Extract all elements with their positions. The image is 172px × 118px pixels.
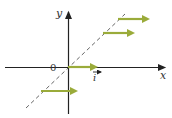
unit-vector-label: i [93,73,96,83]
y-axis-label: y [56,8,62,19]
origin-label: 0 [50,63,56,73]
dashed-line-y-equals-x [26,14,125,108]
vector-field-diagram [0,0,172,118]
x-axis-label: x [160,70,166,81]
